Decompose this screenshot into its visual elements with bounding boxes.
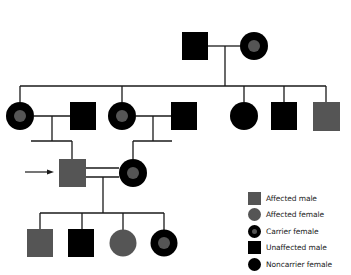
legend-item-unaffected-male: Unaffected male xyxy=(248,240,351,257)
gen2-carrier-female-2 xyxy=(108,102,136,130)
gen1-carrier-female xyxy=(240,32,268,60)
gen2-carrier-female-1 xyxy=(6,102,34,130)
legend-label: Noncarrier female xyxy=(266,260,332,269)
legend-label: Unaffected male xyxy=(266,243,327,252)
gen4-affected-female xyxy=(110,230,137,257)
affected-male-icon xyxy=(248,192,261,205)
legend-item-carrier-female: Carrier female xyxy=(248,223,351,240)
legend-item-affected-male: Affected male xyxy=(248,190,351,207)
gen3-proband-affected-male xyxy=(59,159,86,187)
gen2-affected-male xyxy=(313,102,340,131)
gen2-unaffected-male-3 xyxy=(271,102,297,130)
gen4-unaffected-male xyxy=(68,229,94,257)
gen4-affected-male xyxy=(27,229,53,257)
carrier-female-icon xyxy=(248,225,261,238)
unaffected-male-icon xyxy=(248,241,261,254)
proband-arrow-icon xyxy=(25,170,54,175)
gen1-unaffected-male xyxy=(182,32,208,60)
legend: Affected male Affected female Carrier fe… xyxy=(248,190,351,273)
legend-item-affected-female: Affected female xyxy=(248,207,351,224)
legend-label: Carrier female xyxy=(266,227,319,236)
noncarrier-female-icon xyxy=(248,258,261,271)
gen2-noncarrier-female xyxy=(230,102,258,130)
gen3-carrier-female xyxy=(119,159,147,187)
gen2-unaffected-male-1 xyxy=(70,102,96,130)
legend-label: Affected male xyxy=(266,194,317,203)
legend-label: Affected female xyxy=(266,210,324,219)
affected-female-icon xyxy=(248,208,261,221)
gen2-unaffected-male-2 xyxy=(171,102,197,130)
gen4-carrier-female xyxy=(151,230,178,257)
legend-item-noncarrier-female: Noncarrier female xyxy=(248,256,351,273)
